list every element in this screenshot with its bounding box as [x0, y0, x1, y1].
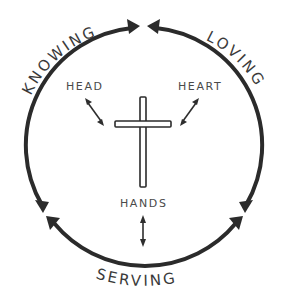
hands-label: HANDS — [120, 197, 167, 210]
serving-label: SERVING — [94, 265, 179, 290]
loving-arc — [147, 19, 262, 205]
knowing-lower-arrowhead-icon — [35, 200, 49, 213]
head-double-arrow-icon — [85, 98, 104, 126]
heart-label: HEART — [178, 80, 222, 93]
knowing-arrowhead-icon — [127, 19, 140, 34]
cross-icon — [115, 97, 171, 187]
hands-double-arrow-icon — [140, 215, 146, 247]
loving-arrowhead-icon — [147, 19, 160, 34]
loving-lower-arrowhead-icon — [239, 200, 253, 213]
knowing-loving-serving-diagram: KNOWING LOVING SERVING HEAD HEART HANDS — [0, 0, 284, 303]
knowing-arc — [26, 19, 140, 205]
heart-double-arrow-icon — [180, 98, 199, 126]
head-label: HEAD — [66, 80, 104, 93]
